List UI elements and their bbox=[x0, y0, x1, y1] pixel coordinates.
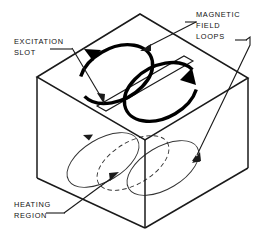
heating-region-line1: HEATING bbox=[14, 200, 51, 209]
heating-region-line2: REGION bbox=[14, 211, 47, 220]
label-heating-region: HEATING REGION bbox=[14, 200, 51, 220]
figure-container: Magnetic field loops and heating region … bbox=[0, 0, 261, 237]
label-magnetic-field-loops: MAGNETIC FIELD LOOPS bbox=[196, 10, 240, 41]
excitation-slot-line2: SLOT bbox=[14, 48, 36, 57]
excitation-slot-line1: EXCITATION bbox=[14, 37, 64, 46]
magnetic-field-loops-line2: FIELD bbox=[196, 21, 220, 30]
technical-diagram: Magnetic field loops and heating region … bbox=[0, 0, 261, 237]
magnetic-field-loops-line3: LOOPS bbox=[196, 32, 225, 41]
label-excitation-slot: EXCITATION SLOT bbox=[14, 37, 64, 57]
magnetic-field-loops-line1: MAGNETIC bbox=[196, 10, 240, 19]
